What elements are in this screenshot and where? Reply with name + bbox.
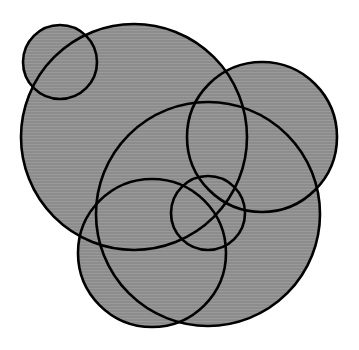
overlapping-circles-diagram bbox=[0, 0, 359, 350]
